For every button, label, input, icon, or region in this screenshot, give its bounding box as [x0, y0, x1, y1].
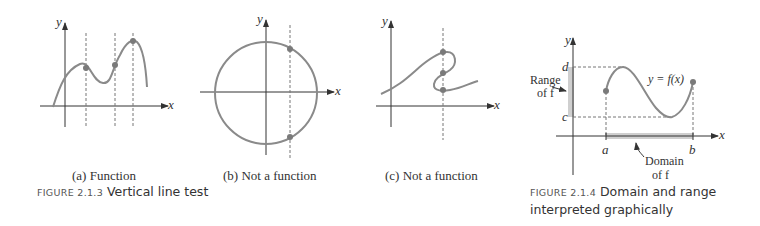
panel-a-graph [40, 23, 168, 127]
endpoint-dot [690, 79, 696, 85]
figure-label: FIGURE 2.1.4 [530, 187, 596, 198]
domain-label-line1: Domain [645, 154, 684, 169]
x-axis-label: x [494, 97, 500, 113]
tick-d: d [562, 59, 569, 75]
figure-2-1-3-caption: FIGURE 2.1.3Vertical line test [37, 183, 208, 201]
endpoint-dot [603, 88, 609, 94]
panel-a-caption: (a) Function [72, 168, 136, 184]
panel-b-graph [200, 20, 334, 160]
intersection-dot [83, 65, 89, 71]
tick-c: c [562, 109, 568, 125]
intersection-dot [287, 46, 293, 52]
y-axis-label: y [257, 11, 263, 27]
x-axis-label: x [719, 127, 725, 143]
figure-label: FIGURE 2.1.3 [37, 187, 103, 198]
intersection-dot [130, 38, 136, 44]
range-label-line2: of f [537, 86, 554, 101]
intersection-dot [287, 134, 293, 140]
y-axis-label: y [565, 32, 571, 48]
tick-b: b [689, 142, 696, 158]
intersection-dot [440, 49, 446, 55]
curve-label: y = f(x) [648, 72, 684, 87]
panel-b-caption: (b) Not a function [223, 168, 317, 184]
tick-a: a [602, 142, 609, 158]
y-axis-label: y [56, 14, 62, 30]
figure-text-line2: interpreted graphically [530, 202, 673, 217]
intersection-dot [440, 70, 446, 76]
domain-label-line2: of f [652, 168, 669, 183]
figure-2-1-4-caption: FIGURE 2.1.4Domain and range interpreted… [530, 183, 716, 218]
y-axis-label: y [382, 13, 388, 29]
relation-curve [381, 52, 478, 94]
x-axis-label: x [168, 97, 174, 113]
figure-text: Vertical line test [107, 184, 208, 199]
panel-c-graph [376, 21, 494, 140]
figure-text-line1: Domain and range [600, 184, 716, 199]
domain-arrow [636, 143, 644, 157]
panel-c-caption: (c) Not a function [385, 168, 478, 184]
intersection-dot [112, 62, 118, 68]
x-axis-label: x [335, 83, 341, 99]
intersection-dot [440, 87, 446, 93]
